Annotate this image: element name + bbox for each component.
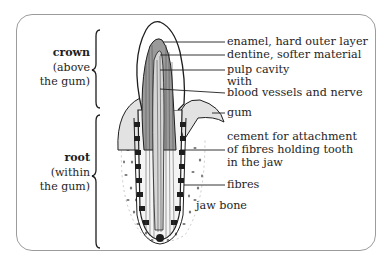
cement-label-3: in the jaw [227,156,283,169]
crown-desc-2: the gum) [40,75,90,90]
cement-label-2: of fibres holding tooth [227,143,353,156]
crown-title: crown [40,46,90,61]
root-label: root (within the gum) [40,151,90,195]
root-desc-1: (within [40,166,90,181]
enamel-label: enamel, hard outer layer [227,35,368,48]
fibres-label: fibres [227,178,259,191]
cement-label-1: cement for attachment [227,130,357,143]
crown-desc-1: (above [40,61,90,76]
root-desc-2: the gum) [40,180,90,195]
root-bracket-icon [92,115,100,248]
dentine-label: dentine, softer material [227,48,361,61]
gum-label: gum [227,106,252,119]
root-title: root [40,151,90,166]
vessels-label: blood vessels and nerve [227,86,363,99]
crown-label: crown (above the gum) [40,46,90,90]
pulp-cavity-icon [153,51,164,230]
jawbone-label: jaw bone [196,199,247,212]
crown-bracket-icon [92,30,100,108]
